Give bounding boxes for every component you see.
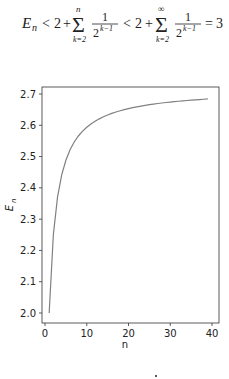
- chart-svg: 2.02.12.22.32.42.52.62.7 010203040 n E n: [0, 80, 229, 360]
- y-tick-label: 2.6: [20, 120, 36, 131]
- formula-frac1-den-base: 2: [93, 26, 99, 40]
- y-tick-label: 2.4: [20, 182, 36, 193]
- x-tick-label: 30: [164, 328, 177, 339]
- y-tick-label: 2.0: [20, 308, 36, 319]
- y-axis: 2.02.12.22.32.42.52.62.7: [20, 89, 42, 319]
- line-chart: 2.02.12.22.32.42.52.62.7 010203040 n E n: [0, 80, 229, 360]
- formula-frac2-den-base: 2: [176, 26, 182, 40]
- x-tick-label: 20: [122, 328, 135, 339]
- formula-two-b: 2: [135, 16, 142, 31]
- formula-plus-b: +: [145, 16, 153, 31]
- formula-lt2: <: [123, 16, 131, 31]
- formula-frac1-den-exp: k−1: [100, 24, 113, 33]
- sigma-1: Σ: [72, 12, 85, 37]
- sigma-2: Σ: [155, 12, 168, 37]
- formula-two-a: 2: [54, 16, 61, 31]
- formula-frac1-num: 1: [102, 10, 108, 24]
- formula-eq: =: [205, 16, 213, 31]
- formula-sum2-lower: k=2: [156, 35, 169, 44]
- formula-plus-a: +: [63, 16, 71, 31]
- y-tick-label: 2.7: [20, 89, 36, 100]
- series-line: [49, 99, 208, 313]
- y-tick-label: 2.1: [20, 276, 36, 287]
- footer-mark: [155, 375, 157, 377]
- y-tick-label: 2.5: [20, 151, 36, 162]
- x-axis: 010203040: [42, 323, 219, 339]
- formula-lhs-sub: n: [32, 22, 37, 33]
- formula-lt1: <: [42, 16, 50, 31]
- formula-svg: E n < 2 + n Σ k=2 1 2 k−1 < 2 + ∞ Σ k=2 …: [0, 0, 229, 50]
- formula-frac2-den-exp: k−1: [183, 24, 196, 33]
- plot-frame: [42, 87, 219, 323]
- formula-rhs: 3: [216, 16, 223, 31]
- formula-frac2-num: 1: [185, 10, 191, 24]
- formula-lhs: E: [21, 15, 31, 31]
- x-tick-label: 10: [80, 328, 93, 339]
- y-axis-label-base: E: [4, 204, 15, 211]
- formula-sum1-lower: k=2: [73, 35, 86, 44]
- y-axis-label: E n: [4, 199, 18, 212]
- x-tick-label: 0: [42, 328, 48, 339]
- y-tick-label: 2.2: [20, 245, 36, 256]
- x-tick-label: 40: [206, 328, 219, 339]
- y-axis-label-sub: n: [10, 199, 18, 203]
- x-axis-label: n: [122, 339, 128, 350]
- y-tick-label: 2.3: [20, 214, 36, 225]
- formula: E n < 2 + n Σ k=2 1 2 k−1 < 2 + ∞ Σ k=2 …: [0, 0, 229, 50]
